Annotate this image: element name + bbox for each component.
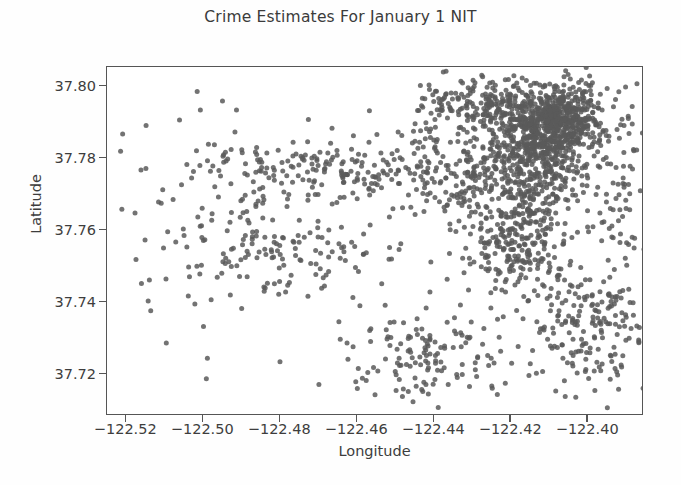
x-tick-mark <box>202 415 203 422</box>
scatter-points-layer <box>107 67 643 415</box>
chart-title: Crime Estimates For January 1 NIT <box>0 8 681 26</box>
y-tick-label: 37.72 <box>0 366 96 382</box>
y-tick-mark <box>99 85 106 86</box>
x-tick-label: −122.46 <box>325 421 388 437</box>
x-tick-mark <box>125 415 126 422</box>
scatter-plot-area <box>106 66 643 415</box>
x-tick-mark <box>356 415 357 422</box>
y-tick-mark <box>99 157 106 158</box>
x-axis-label: Longitude <box>106 443 643 459</box>
y-tick-label: 37.76 <box>0 222 96 238</box>
y-tick-mark <box>99 301 106 302</box>
x-tick-label: −122.40 <box>556 421 619 437</box>
y-tick-label: 37.74 <box>0 294 96 310</box>
y-tick-label: 37.78 <box>0 150 96 166</box>
x-tick-label: −122.44 <box>402 421 465 437</box>
x-tick-mark <box>433 415 434 422</box>
y-tick-mark <box>99 229 106 230</box>
x-tick-label: −122.42 <box>479 421 542 437</box>
y-tick-label: 37.80 <box>0 78 96 94</box>
figure-canvas: Crime Estimates For January 1 NIT Latitu… <box>0 0 681 485</box>
x-tick-mark <box>509 415 510 422</box>
y-tick-mark <box>99 373 106 374</box>
x-tick-mark <box>279 415 280 422</box>
x-tick-label: −122.50 <box>171 421 234 437</box>
x-tick-label: −122.48 <box>248 421 311 437</box>
x-tick-label: −122.52 <box>94 421 157 437</box>
x-tick-mark <box>586 415 587 422</box>
